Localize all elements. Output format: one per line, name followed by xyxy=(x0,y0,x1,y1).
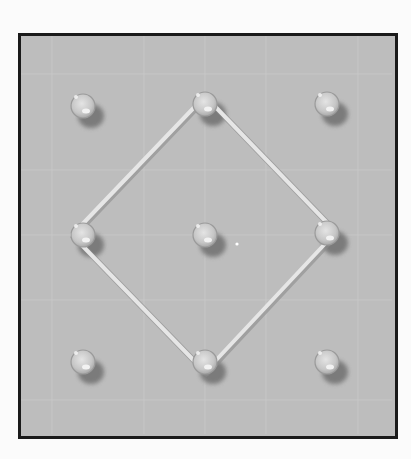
geoboard-photo xyxy=(0,0,411,459)
peg-top-right xyxy=(315,92,339,116)
speck xyxy=(235,242,238,245)
peg-highlight xyxy=(82,238,90,243)
peg-highlight xyxy=(204,238,212,243)
peg-middle-right xyxy=(315,221,339,245)
peg-highlight xyxy=(204,365,212,370)
peg-glint xyxy=(196,351,200,355)
peg-glint xyxy=(74,224,78,228)
peg-glint xyxy=(318,222,322,226)
peg-glint xyxy=(196,224,200,228)
peg-highlight xyxy=(82,109,90,114)
peg-top-left xyxy=(71,94,95,118)
peg-glint xyxy=(196,93,200,97)
peg-bottom-right xyxy=(315,350,339,374)
peg-highlight xyxy=(326,236,334,241)
dust-speck xyxy=(235,242,238,245)
peg-top-center xyxy=(193,92,217,116)
peg-glint xyxy=(74,351,78,355)
peg-bottom-left xyxy=(71,350,95,374)
peg-highlight xyxy=(82,365,90,370)
peg-center xyxy=(193,223,217,247)
peg-glint xyxy=(318,93,322,97)
peg-highlight xyxy=(326,107,334,112)
geoboard-scene xyxy=(0,0,411,459)
peg-middle-left xyxy=(71,223,95,247)
peg-glint xyxy=(74,95,78,99)
peg-highlight xyxy=(326,365,334,370)
peg-highlight xyxy=(204,107,212,112)
peg-glint xyxy=(318,351,322,355)
peg-bottom-center xyxy=(193,350,217,374)
